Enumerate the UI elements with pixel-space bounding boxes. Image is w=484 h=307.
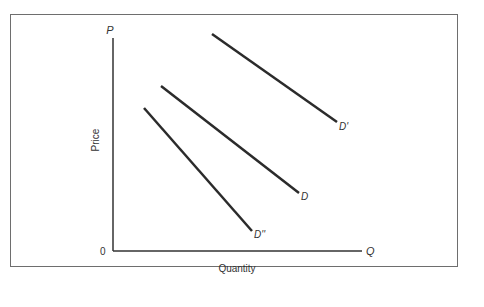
demand-curve-d-double-prime bbox=[144, 108, 252, 231]
y-axis-label: Price bbox=[90, 128, 101, 151]
y-axis-symbol: P bbox=[106, 24, 114, 36]
demand-shift-diagram: P Q 0 Quantity Price D' D D'' bbox=[0, 0, 484, 307]
demand-curve-d-prime bbox=[212, 34, 337, 122]
curve-label-d: D bbox=[301, 191, 308, 202]
curve-label-d-double-prime: D'' bbox=[254, 229, 266, 240]
demand-curve-d bbox=[161, 86, 299, 193]
curve-label-d-prime: D' bbox=[339, 121, 349, 132]
x-axis-label: Quantity bbox=[218, 263, 255, 274]
x-axis-symbol: Q bbox=[366, 245, 375, 257]
origin-label: 0 bbox=[100, 246, 106, 257]
